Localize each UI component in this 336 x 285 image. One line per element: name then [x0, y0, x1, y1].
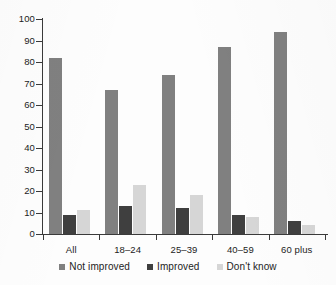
x-axis-line	[42, 234, 328, 235]
legend-item-label: Improved	[157, 261, 200, 272]
bar	[162, 75, 175, 234]
y-axis-tick	[36, 234, 42, 235]
bar	[133, 185, 146, 234]
y-axis-tick	[36, 105, 42, 106]
y-axis-tick-label: 70	[0, 78, 35, 89]
bar	[63, 215, 76, 234]
y-axis-tick-label: 90	[0, 35, 35, 46]
y-axis-tick	[36, 127, 42, 128]
x-axis-tick	[43, 235, 44, 240]
y-axis-tick-label: 60	[0, 99, 35, 110]
y-axis-tick-label: 50	[0, 121, 35, 132]
y-axis-tick	[36, 41, 42, 42]
legend-item: Not improved	[59, 261, 130, 272]
x-axis-category-label: 60 plus	[269, 244, 325, 255]
bar	[218, 47, 231, 234]
bar	[176, 208, 189, 234]
y-axis-tick-label: 0	[0, 228, 35, 239]
y-axis-tick	[36, 84, 42, 85]
y-axis-tick	[36, 62, 42, 63]
bar	[77, 210, 90, 234]
legend-swatch-icon	[147, 264, 153, 270]
chart-legend: Not improvedImprovedDon't know	[0, 261, 336, 272]
y-axis-tick-label: 100	[0, 13, 35, 24]
bar	[246, 217, 259, 234]
y-axis-tick	[36, 191, 42, 192]
bar-chart: 0102030405060708090100 All18–2425–3940–5…	[0, 0, 336, 285]
bar	[105, 90, 118, 234]
legend-item-label: Don't know	[227, 261, 277, 272]
y-axis-tick	[36, 19, 42, 20]
x-axis-category-label: 40–59	[212, 244, 268, 255]
y-axis-tick-label: 20	[0, 185, 35, 196]
y-axis-tick	[36, 148, 42, 149]
legend-item: Improved	[147, 261, 200, 272]
y-axis-tick-label: 30	[0, 164, 35, 175]
y-axis-tick	[36, 170, 42, 171]
x-axis-tick	[212, 235, 213, 240]
bar	[49, 58, 62, 234]
x-axis-category-label: 25–39	[156, 244, 212, 255]
legend-swatch-icon	[59, 264, 65, 270]
x-axis-category-label: All	[43, 244, 99, 255]
bar	[190, 195, 203, 234]
x-axis-tick	[99, 235, 100, 240]
y-axis-tick-label: 80	[0, 56, 35, 67]
x-axis-tick	[325, 235, 326, 240]
x-axis-tick	[156, 235, 157, 240]
x-axis-tick	[269, 235, 270, 240]
y-axis-tick	[36, 213, 42, 214]
bar	[119, 206, 132, 234]
legend-item: Don't know	[217, 261, 277, 272]
legend-swatch-icon	[217, 264, 223, 270]
bar	[288, 221, 301, 234]
legend-item-label: Not improved	[69, 261, 130, 272]
bar	[274, 32, 287, 234]
y-axis-tick-label: 10	[0, 207, 35, 218]
x-axis-category-label: 18–24	[99, 244, 155, 255]
y-axis-tick-label: 40	[0, 142, 35, 153]
plot-area	[43, 19, 325, 234]
bar	[302, 225, 315, 234]
bar	[232, 215, 245, 234]
